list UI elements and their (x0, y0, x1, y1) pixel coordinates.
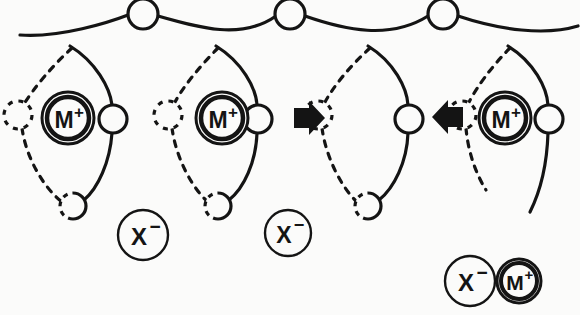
dashed-loop-4-lower (466, 128, 486, 190)
chain-nodes-bottom (60, 193, 381, 219)
cation-label-2: M (208, 107, 227, 133)
cation-site-2: M + (196, 92, 248, 144)
chain-node-top-2 (275, 0, 305, 29)
chain-node-right-1 (99, 105, 127, 133)
chain-segment-2-top (305, 16, 428, 30)
dashed-loop-3-lower (322, 128, 357, 202)
anion-label-2: X (276, 222, 292, 248)
chain-loop-3-lower (379, 133, 408, 200)
cation-charge-1: + (74, 103, 84, 122)
cation-site-3: M + (479, 92, 531, 144)
anion-label-1: X (131, 223, 147, 250)
cation-charge-2: + (228, 103, 238, 122)
chain-node-right-4 (535, 105, 563, 133)
diagram-canvas: M + M + M + X (0, 0, 580, 315)
ion-pair: X − M + (445, 256, 541, 306)
ion-pair-cation-label: M (506, 271, 524, 294)
chain-node-top-3 (428, 0, 458, 29)
cation-label-3: M (491, 107, 510, 133)
cation-charge-3: + (511, 103, 521, 122)
chain-node-right-3 (395, 105, 423, 133)
anion-charge-1: − (149, 216, 160, 237)
chain-segment-1-top (158, 16, 276, 30)
chain-segment-3-top (458, 16, 578, 31)
chain-loop-1-lower (84, 133, 112, 200)
chain-loop-4-lower (530, 133, 548, 212)
ion-transport-figure: M + M + M + X (0, 0, 580, 315)
ghost-node-2 (154, 101, 182, 129)
ghost-node-1 (4, 101, 32, 129)
anion-free-1: X − (118, 210, 168, 260)
ion-pair-anion-charge: − (476, 262, 487, 283)
ion-pair-cation-charge: + (525, 266, 534, 283)
anion-charge-2: − (294, 215, 305, 235)
cation-site-1: M + (42, 92, 94, 144)
dashed-loop-2-lower (172, 128, 208, 202)
ion-pair-anion-label: X (458, 269, 474, 296)
cation-label-1: M (54, 107, 73, 133)
chain-node-top-1 (128, 0, 158, 29)
chain-loop-3-right (368, 46, 408, 105)
dashed-loop-3-upper (324, 48, 370, 104)
chain-segment-lead (20, 15, 128, 35)
anion-free-2: X − (265, 210, 311, 256)
